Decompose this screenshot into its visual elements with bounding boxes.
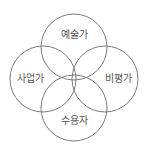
label-businessperson: 사업가 — [17, 72, 44, 84]
label-artist: 예술가 — [61, 29, 88, 40]
circle-audience — [41, 75, 107, 141]
label-critic: 비평가 — [105, 73, 132, 84]
label-audience: 수용자 — [61, 115, 88, 126]
venn-diagram: 예술가 사업가 비평가 수용자 — [0, 0, 148, 153]
